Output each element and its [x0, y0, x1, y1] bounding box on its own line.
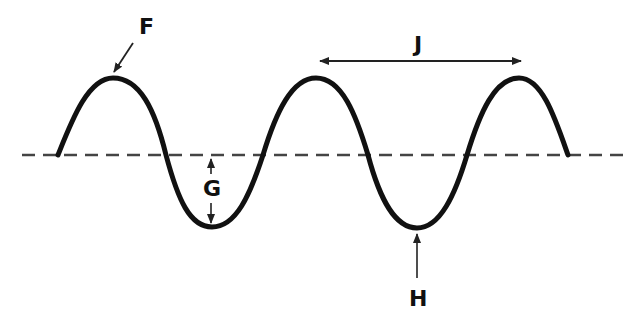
- wave-curve: [58, 78, 568, 228]
- label-h: H: [409, 286, 427, 311]
- label-j: J: [412, 32, 422, 57]
- arrow-f-icon: [114, 43, 133, 72]
- label-f: F: [139, 14, 154, 39]
- label-g: G: [203, 176, 221, 201]
- wave-diagram: F J G H: [0, 0, 641, 328]
